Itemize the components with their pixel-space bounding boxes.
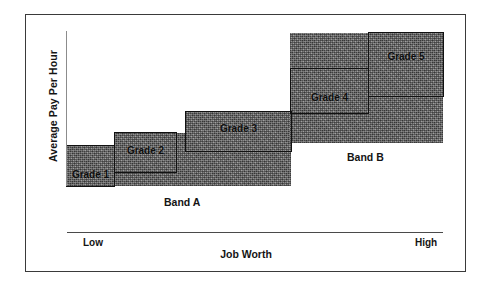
grade-box-3: Grade 3 [185, 111, 292, 152]
grade-box-4: Grade 4 [290, 68, 369, 114]
band-a-label: Band A [164, 196, 200, 208]
grade-label-2: Grade 2 [127, 145, 164, 156]
grade-box-2: Grade 2 [114, 132, 177, 173]
grade-label-3: Grade 3 [220, 123, 257, 134]
band-b-shaded-area [290, 33, 368, 69]
grade-box-5: Grade 5 [368, 32, 444, 97]
x-axis-line [67, 232, 443, 233]
x-axis-tick-high: High [415, 237, 437, 248]
x-axis-tick-low: Low [83, 237, 103, 248]
grade-label-5: Grade 5 [387, 51, 424, 62]
band-b-label: Band B [347, 151, 384, 163]
x-axis-title: Job Worth [0, 248, 492, 260]
grade-box-1: Grade 1 [66, 145, 115, 187]
grade-label-1: Grade 1 [72, 169, 109, 180]
grade-label-4: Grade 4 [311, 92, 348, 103]
y-axis-line [66, 31, 67, 186]
y-axis-title: Average Pay Per Hour [47, 31, 59, 181]
pay-banding-figure: Grade 1 Grade 2 Grade 3 Grade 4 Grade 5 … [0, 0, 492, 290]
